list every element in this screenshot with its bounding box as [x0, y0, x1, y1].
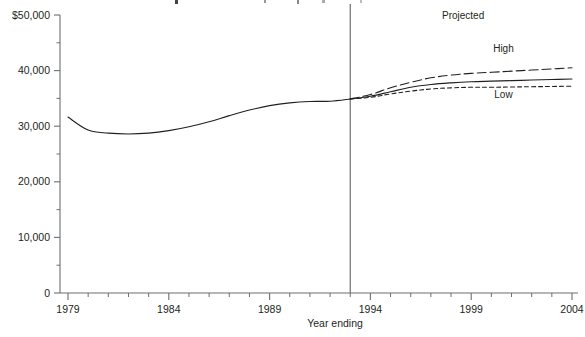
x-tick-label: 1979 [56, 303, 80, 315]
annotation-high: High [493, 43, 514, 54]
y-tick-label: 10,000 [18, 231, 50, 243]
y-tick-label: 30,000 [18, 120, 50, 132]
annotation-low: Low [494, 89, 513, 100]
x-axis-title: Year ending [307, 317, 363, 329]
x-tick-label: 2004 [560, 303, 584, 315]
annotation-projected: Projected [442, 10, 484, 21]
y-tick-label: 20,000 [18, 175, 50, 187]
line-chart: 010,00020,00030,00040,000$50,000 1979198… [0, 0, 585, 337]
chart-container: 010,00020,00030,00040,000$50,000 1979198… [0, 0, 585, 337]
y-tick-label: $50,000 [12, 9, 50, 21]
y-tick-label: 40,000 [18, 64, 50, 76]
x-tick-label: 1984 [157, 303, 181, 315]
x-tick-label: 1994 [359, 303, 383, 315]
x-tick-label: 1999 [460, 303, 484, 315]
y-tick-label: 0 [44, 287, 50, 299]
x-tick-label: 1989 [258, 303, 282, 315]
